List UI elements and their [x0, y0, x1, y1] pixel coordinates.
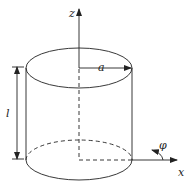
- radius-label: a: [98, 61, 105, 74]
- phi-label: φ: [159, 139, 167, 152]
- length-label: l: [6, 107, 10, 120]
- cylinder-diagram: z x a l φ: [0, 0, 193, 193]
- x-label: x: [178, 166, 185, 179]
- cylinder-bottom-front: [26, 160, 132, 180]
- z-label: z: [68, 7, 75, 20]
